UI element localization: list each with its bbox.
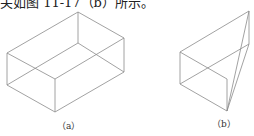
edge	[55, 38, 124, 79]
figure-b-wedge	[180, 11, 249, 111]
edge	[180, 44, 249, 84]
edge	[227, 44, 249, 111]
edge	[180, 11, 249, 52]
figure-a-label: （a）	[57, 119, 80, 132]
edge	[7, 12, 78, 53]
edge	[7, 53, 55, 79]
edge	[7, 43, 78, 85]
edge	[180, 52, 227, 79]
edge	[227, 11, 249, 111]
figure-drawing	[0, 0, 254, 136]
edge	[180, 84, 227, 111]
edge	[78, 12, 124, 38]
edge	[7, 85, 55, 112]
figure-b-label: （b）	[212, 117, 236, 130]
edge	[55, 72, 124, 112]
figure-a-box	[7, 12, 124, 112]
edge	[78, 43, 124, 72]
